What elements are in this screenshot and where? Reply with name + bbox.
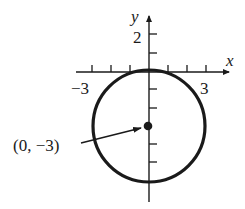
x-tick-label-3: 3 (200, 79, 209, 98)
x-axis-label: x (225, 51, 234, 70)
center-annotation-label: (0, −3) (13, 136, 59, 155)
diagram-canvas: x y −3 3 2 (0, −3) (0, 0, 245, 209)
y-axis-label: y (129, 7, 139, 26)
center-point (144, 122, 153, 131)
annotation-arrow (81, 128, 141, 143)
x-tick-label-neg3: −3 (71, 79, 89, 98)
y-tick-label-2: 2 (133, 28, 142, 47)
y-axis-ticks (149, 34, 157, 162)
